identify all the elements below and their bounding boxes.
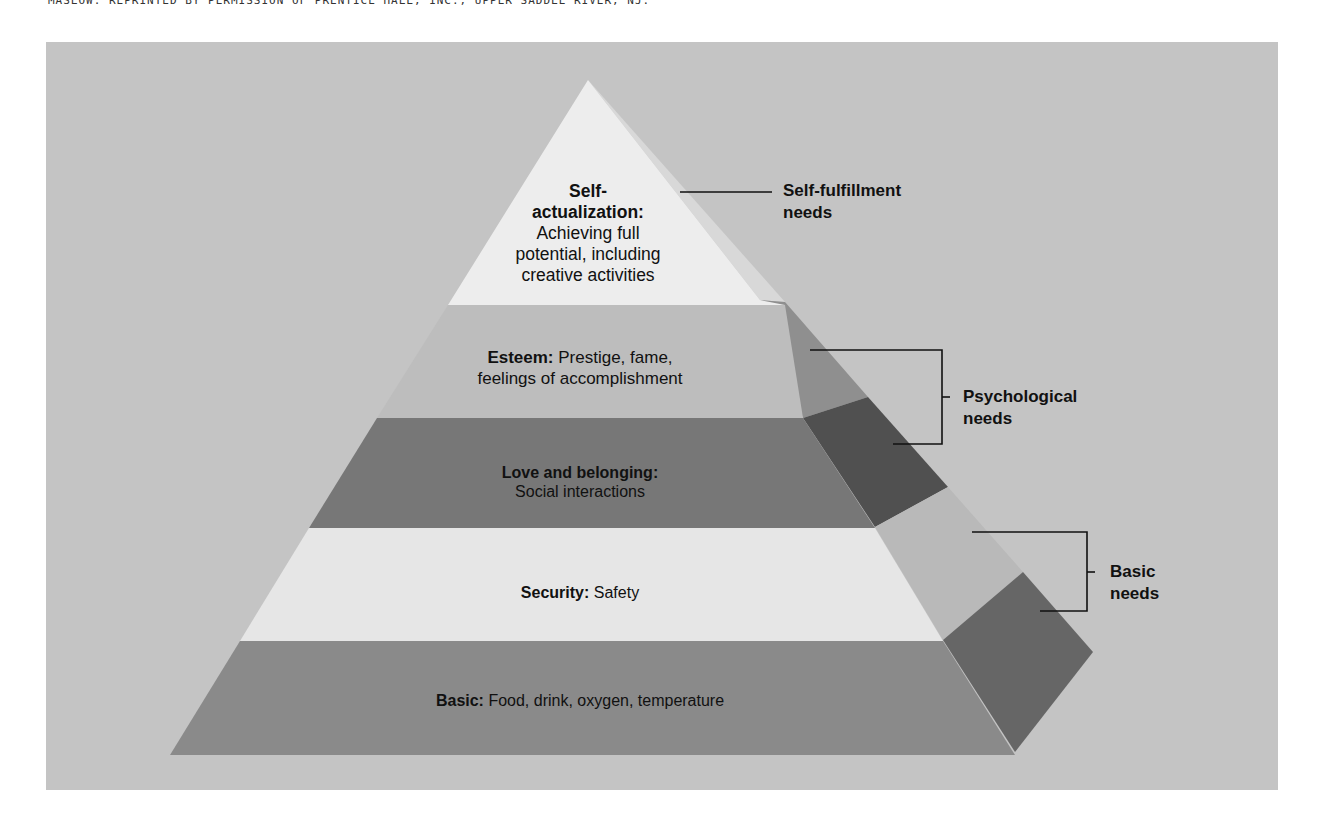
love-belonging-label: Love and belonging: Social interactions [430,463,730,501]
psychological-needs-label: Psychological needs [963,386,1077,430]
esteem-label: Esteem: Prestige, fame, feelings of acco… [430,347,730,389]
self-fulfillment-needs-label: Self-fulfillment needs [783,180,901,224]
security-label: Security: Safety [430,582,730,603]
self-actualization-label: Self- actualization: Achieving full pote… [488,181,688,286]
basic-needs-label: Basic needs [1110,561,1159,605]
basic-label: Basic: Food, drink, oxygen, temperature [330,690,830,711]
